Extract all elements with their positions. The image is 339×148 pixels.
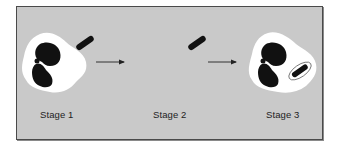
stage3-label: Stage 3 <box>266 109 299 120</box>
stage1-cell <box>22 33 86 93</box>
stage1-bacterium <box>75 35 95 51</box>
phagocytosis-diagram <box>0 0 339 148</box>
stage3-cell <box>249 32 317 92</box>
stage2-label: Stage 2 <box>153 109 186 120</box>
stage2-bacterium <box>187 35 207 51</box>
stage1-label: Stage 1 <box>40 109 73 120</box>
